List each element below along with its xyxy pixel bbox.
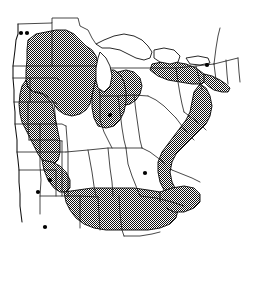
record-minnesota-west [19, 31, 23, 35]
record-virginia [143, 171, 147, 175]
map-canvas [0, 0, 264, 296]
record-minnesota-east [25, 31, 29, 35]
record-louisiana [43, 225, 47, 229]
record-oklahoma [48, 178, 52, 182]
record-arkansas-west [36, 190, 40, 194]
record-illinois [108, 113, 112, 117]
record-new-york [205, 63, 209, 67]
distribution-map-figure: Shaded: continuous range Dot: isolated r… [0, 0, 264, 296]
range-polygon-carolina-piedmont [160, 186, 200, 212]
